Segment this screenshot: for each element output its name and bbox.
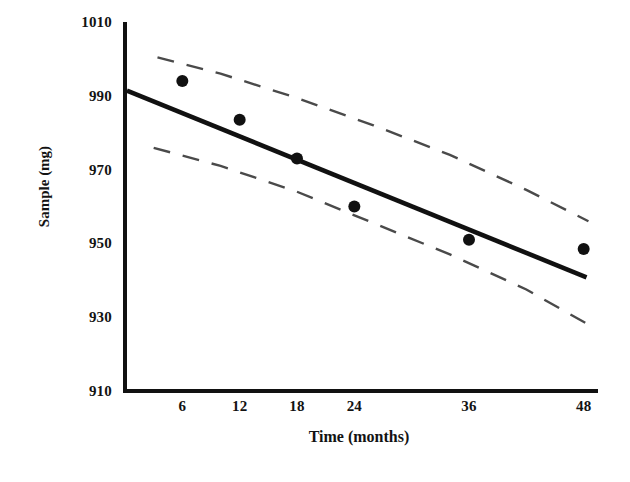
- y-tick-label: 990: [40, 87, 112, 104]
- data-point-marker: [578, 243, 590, 255]
- y-tick-label: 910: [40, 383, 112, 400]
- upper-confidence-band: [157, 57, 588, 221]
- x-tick-label: 36: [461, 398, 476, 415]
- x-tick-label: 24: [347, 398, 362, 415]
- data-point-marker: [176, 75, 188, 87]
- y-axis-title: Sample (mg): [36, 107, 53, 267]
- data-point-marker: [291, 153, 303, 165]
- regression-line: [127, 91, 587, 278]
- x-tick-label: 6: [178, 398, 186, 415]
- data-point-marker: [234, 114, 246, 126]
- data-point-marker: [463, 234, 475, 246]
- chart-figure: 9109309509709901010 61218243648 Sample (…: [0, 0, 630, 482]
- lower-confidence-band: [154, 148, 589, 325]
- data-point-marker: [348, 201, 360, 213]
- x-tick-label: 18: [289, 398, 304, 415]
- x-axis-title: Time (months): [124, 428, 594, 446]
- x-tick-label: 12: [232, 398, 247, 415]
- y-tick-label: 1010: [40, 14, 112, 31]
- y-tick-label: 930: [40, 309, 112, 326]
- x-tick-label: 48: [576, 398, 591, 415]
